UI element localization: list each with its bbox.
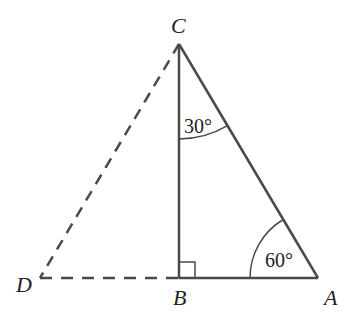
triangle-diagram: C B A D 30° 60° xyxy=(0,0,354,316)
angle-label-A: 60° xyxy=(265,249,293,271)
segment-CA xyxy=(179,44,318,278)
angle-label-C: 30° xyxy=(184,115,212,137)
point-label-D: D xyxy=(15,272,32,297)
point-label-A: A xyxy=(322,285,338,310)
segment-CD-dashed xyxy=(40,44,179,278)
right-angle-marker xyxy=(179,262,195,278)
point-label-B: B xyxy=(173,285,186,310)
point-label-C: C xyxy=(171,13,186,38)
